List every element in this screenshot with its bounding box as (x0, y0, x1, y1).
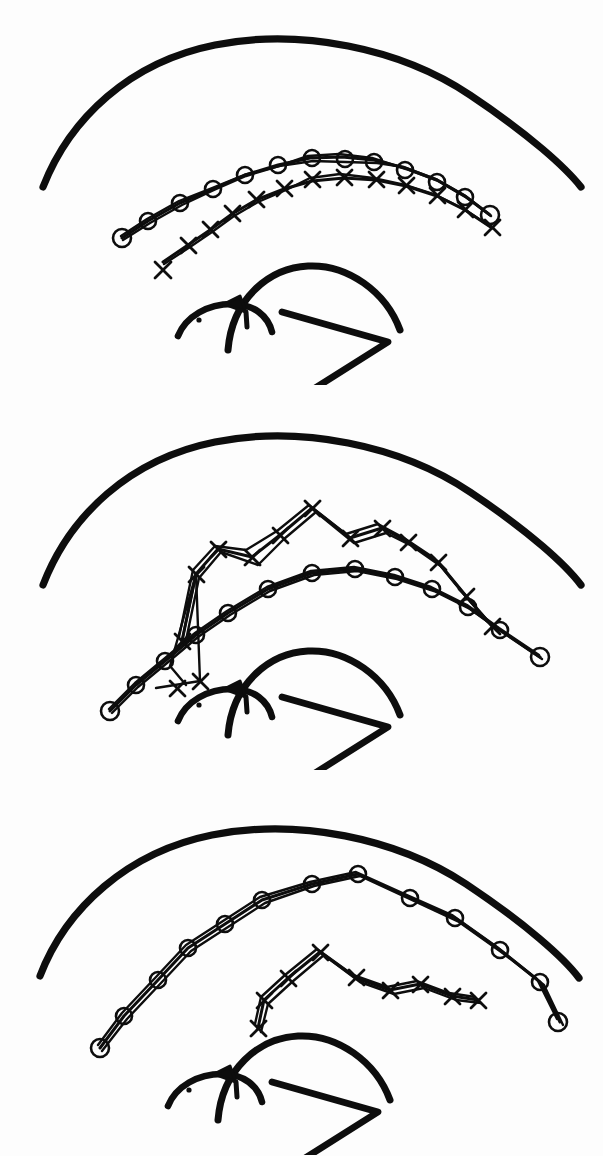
cross-markers (251, 945, 486, 1036)
head-profile-schematic (178, 651, 400, 770)
circle-trace-group (101, 561, 549, 720)
head-profile-schematic (168, 1036, 390, 1155)
circle-markers (91, 866, 567, 1057)
reference-dot (196, 702, 201, 707)
circle-trace-group (91, 866, 567, 1057)
panel-top (0, 0, 603, 385)
cross-trace-group (251, 945, 486, 1036)
panel-middle (0, 385, 603, 770)
panel-top-canvas (0, 0, 603, 385)
panel-bottom-canvas (0, 770, 603, 1155)
reference-dot (186, 1087, 191, 1092)
head-profile-schematic (178, 266, 400, 385)
circle-markers (101, 561, 549, 720)
panel-bottom (0, 770, 603, 1155)
figure-root (0, 0, 603, 1156)
reference-dot (196, 317, 201, 322)
panel-middle-canvas (0, 385, 603, 770)
